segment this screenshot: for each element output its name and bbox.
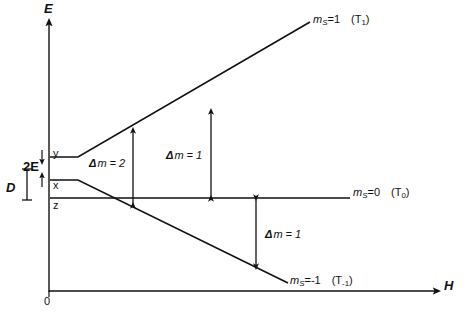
ms-symbol: m — [290, 274, 299, 286]
transition-arrows — [133, 111, 256, 267]
delta-m-2-text: m = 2 — [97, 157, 125, 169]
term-close: ) — [366, 13, 370, 25]
transition-label-delta-m-1-lower: Δm = 1 — [265, 229, 301, 240]
state-label-t-zero: mS=0(T0) — [353, 187, 409, 200]
state-label-t-minus-1: mS=-1(T-1) — [290, 275, 353, 288]
state-label-t-plus-1: mS=1(T1) — [313, 14, 369, 27]
level-label-z: z — [53, 200, 59, 211]
origin-label: 0 — [44, 296, 50, 307]
ms-value: =1 — [327, 13, 340, 25]
level-label-x: x — [53, 180, 59, 191]
ms-value: =0 — [367, 186, 380, 198]
curve-ms-minus-1 — [50, 180, 288, 283]
two-e-text: 2E — [23, 159, 39, 174]
diagram-canvas — [0, 0, 464, 315]
zero-field-splitting-2e-label: 2E — [23, 160, 39, 173]
energy-level-diagram: E H 0 y x z 2E D Δm = 2 Δm = 1 Δm = 1 mS… — [0, 0, 464, 315]
x-axis-label: H — [444, 279, 453, 292]
y-axis-label: E — [44, 2, 53, 15]
level-label-y: y — [53, 148, 59, 159]
zero-field-splitting-d-label: D — [6, 181, 15, 194]
delta-m-1-upper-text: m = 1 — [174, 149, 202, 161]
delta-symbol: Δ — [89, 157, 96, 169]
term-close: ) — [349, 274, 353, 286]
term-open: (T — [332, 274, 342, 286]
ms-value: =-1 — [304, 274, 320, 286]
term-open: (T — [391, 186, 401, 198]
delta-symbol: Δ — [166, 149, 173, 161]
transition-label-delta-m-2: Δm = 2 — [89, 158, 125, 169]
curve-ms-plus-1 — [50, 22, 310, 157]
transition-label-delta-m-1-upper: Δm = 1 — [166, 150, 202, 161]
delta-symbol: Δ — [265, 228, 272, 240]
ms-symbol: m — [353, 186, 362, 198]
term-open: (T — [351, 13, 361, 25]
ms-symbol: m — [313, 13, 322, 25]
delta-m-1-lower-text: m = 1 — [273, 228, 301, 240]
term-close: ) — [406, 186, 410, 198]
